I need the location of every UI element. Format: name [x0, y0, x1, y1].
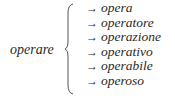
derivative-word: operazione — [101, 29, 161, 44]
list-item: →operabile — [86, 59, 161, 74]
derivative-word: operoso — [101, 73, 144, 88]
derivative-word: opera — [101, 0, 133, 15]
list-item: →operatore — [86, 16, 161, 31]
left-brace-icon — [64, 3, 74, 95]
derivative-word: operabile — [101, 58, 153, 73]
arrow-right-icon: → — [86, 16, 98, 30]
list-item: →opera — [86, 1, 161, 16]
list-item: →operativo — [86, 45, 161, 60]
arrow-right-icon: → — [86, 59, 98, 73]
root-word: operare — [10, 42, 54, 58]
derivatives-list: →opera →operatore →operazione →operativo… — [86, 1, 161, 89]
list-item: →operazione — [86, 30, 161, 45]
list-item: →operoso — [86, 74, 161, 89]
arrow-right-icon: → — [86, 45, 98, 59]
arrow-right-icon: → — [86, 74, 98, 88]
arrow-right-icon: → — [86, 30, 98, 44]
derivative-word: operatore — [101, 15, 154, 30]
derivative-word: operativo — [101, 44, 153, 59]
arrow-right-icon: → — [86, 1, 98, 15]
